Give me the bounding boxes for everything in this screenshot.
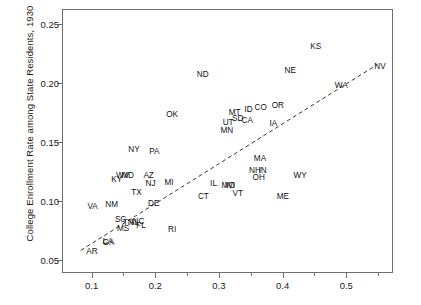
- data-point-label: NJ: [146, 180, 156, 188]
- data-point-label: GA: [103, 239, 115, 247]
- x-axis-tick: [346, 272, 347, 278]
- data-point-label: OH: [253, 174, 265, 182]
- x-axis-tick: [219, 272, 220, 278]
- data-point-label: MA: [254, 155, 266, 163]
- y-axis-tick-label: 0.25: [41, 19, 60, 30]
- data-point-label: MN: [221, 127, 234, 135]
- y-axis-tick-label: 0.20: [41, 78, 60, 89]
- y-axis-tick-label: 0.05: [41, 254, 60, 265]
- data-point-label: MS: [117, 225, 129, 233]
- y-axis-title: College Enrollment Rate among State Resi…: [24, 0, 35, 249]
- x-axis-tick: [92, 272, 93, 278]
- data-point-label: RI: [168, 226, 176, 234]
- data-point-label: CO: [255, 104, 267, 112]
- data-point-label: VA: [87, 203, 97, 211]
- x-axis-minor-tick: [187, 272, 188, 276]
- data-point-label: OK: [166, 111, 178, 119]
- data-point-label: NM: [105, 201, 118, 209]
- data-point-label: CA: [242, 117, 253, 125]
- plot-area: 0.050.100.150.200.250.10.20.30.40.5NVKSN…: [62, 9, 393, 273]
- data-point-label: NE: [285, 67, 296, 75]
- data-point-label: PA: [149, 148, 159, 156]
- regression-fit-line: [63, 10, 392, 272]
- data-point-label: AR: [86, 248, 97, 256]
- y-axis-tick-label: 0.15: [41, 137, 60, 148]
- data-point-label: KS: [310, 43, 321, 51]
- data-point-label: FL: [136, 222, 146, 230]
- data-point-label: ND: [197, 71, 209, 79]
- x-axis-minor-tick: [123, 272, 124, 276]
- x-axis-tick: [155, 272, 156, 278]
- data-point-label: OR: [272, 102, 284, 110]
- data-point-label: WY: [294, 171, 307, 179]
- data-point-label: ID: [244, 105, 252, 113]
- x-axis-minor-tick: [378, 272, 379, 276]
- y-axis-tick-label: 0.10: [41, 195, 60, 206]
- data-point-label: MI: [164, 179, 173, 187]
- x-axis-minor-tick: [314, 272, 315, 276]
- data-point-label: CT: [198, 193, 209, 201]
- x-axis-tick-label: 0.4: [276, 280, 289, 291]
- data-point-label: IA: [270, 120, 278, 128]
- data-point-label: NV: [374, 63, 385, 71]
- x-axis-tick-label: 0.1: [85, 280, 98, 291]
- data-point-label: DE: [148, 200, 159, 208]
- data-point-label: VT: [232, 190, 242, 198]
- x-axis-tick-label: 0.3: [212, 280, 225, 291]
- x-axis-minor-tick: [251, 272, 252, 276]
- data-point-label: ME: [277, 193, 289, 201]
- data-point-label: KY: [111, 176, 122, 184]
- x-axis-tick: [283, 272, 284, 278]
- data-point-label: WA: [335, 82, 348, 90]
- data-point-label: TX: [131, 189, 141, 197]
- x-axis-tick-label: 0.2: [149, 280, 162, 291]
- x-axis-tick-label: 0.5: [340, 280, 353, 291]
- data-point-label: IL: [210, 180, 217, 188]
- data-point-label: NY: [128, 146, 139, 154]
- scatter-plot-figure: College Enrollment Rate among State Resi…: [0, 0, 421, 305]
